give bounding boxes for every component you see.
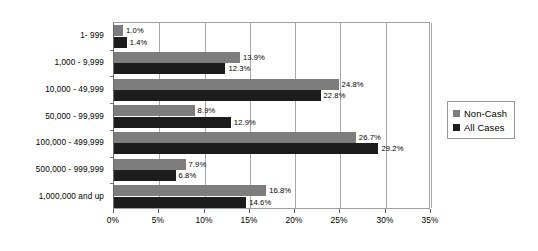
bar-value-label: 24.8% — [342, 79, 364, 90]
bar-value-label: 22.8% — [324, 90, 346, 101]
legend-label: Non-Cash — [464, 108, 507, 119]
bar-value-label: 7.9% — [189, 159, 207, 170]
bar-all-cases — [114, 117, 231, 128]
category-label: 1,000 - 9,999 — [54, 58, 104, 67]
bar-value-label: 29.2% — [381, 143, 403, 154]
x-axis-tick — [204, 209, 205, 213]
bar-non-cash — [114, 25, 123, 36]
y-axis-tick — [110, 76, 114, 77]
bar-value-label: 8.9% — [198, 105, 216, 116]
x-axis-ticks — [113, 209, 430, 214]
gridline — [250, 23, 251, 208]
bar-all-cases — [114, 170, 176, 181]
x-axis-tick-label: 35% — [421, 215, 438, 225]
bar-non-cash — [114, 52, 240, 63]
x-axis-tick-label: 30% — [376, 215, 393, 225]
bar-non-cash — [114, 132, 356, 143]
x-axis-tick — [113, 209, 114, 213]
x-axis-tick — [339, 209, 340, 213]
bar-value-label: 1.0% — [126, 25, 144, 36]
x-axis-tick — [249, 209, 250, 213]
x-axis-tick — [294, 209, 295, 213]
legend-label: All Cases — [464, 122, 505, 133]
category-axis-labels: 1- 9991,000 - 9,99910,000 - 49,99950,000… — [0, 22, 110, 209]
x-axis-tick — [385, 209, 386, 213]
gridline — [340, 23, 341, 208]
bar-value-label: 26.7% — [359, 132, 381, 143]
x-axis-tick-label: 20% — [285, 215, 302, 225]
bar-non-cash — [114, 185, 266, 196]
bar-all-cases — [114, 63, 225, 74]
bar-value-label: 6.8% — [179, 170, 197, 181]
bar-chart: 1- 9991,000 - 9,99910,000 - 49,99950,000… — [0, 0, 538, 251]
gridline — [386, 23, 387, 208]
y-axis-tick — [110, 183, 114, 184]
gridline — [431, 23, 432, 208]
category-label: 50,000 - 99,999 — [45, 111, 104, 120]
bar-value-label: 16.8% — [269, 185, 291, 196]
x-axis-tick — [430, 209, 431, 213]
y-axis-tick — [110, 103, 114, 104]
bar-value-label: 13.9% — [243, 52, 265, 63]
x-axis-tick — [158, 209, 159, 213]
x-axis-tick-label: 25% — [330, 215, 347, 225]
bar-non-cash — [114, 159, 186, 170]
bar-value-label: 12.3% — [228, 63, 250, 74]
x-axis-labels: 0%5%10%15%20%25%30%35% — [113, 215, 430, 229]
x-axis-tick-label: 0% — [107, 215, 119, 225]
bar-all-cases — [114, 37, 127, 48]
legend-swatch-icon — [453, 110, 460, 117]
plot-area: 1.0%1.4%13.9%12.3%24.8%22.8%8.9%12.9%26.… — [113, 22, 430, 209]
bar-all-cases — [114, 197, 246, 208]
chart-legend: Non-CashAll Cases — [447, 101, 515, 139]
category-label: 500,000 - 999,999 — [36, 164, 104, 173]
x-axis-tick-label: 15% — [240, 215, 257, 225]
bar-value-label: 14.6% — [249, 197, 271, 208]
category-label: 1- 999 — [80, 31, 104, 40]
legend-swatch-icon — [453, 124, 460, 131]
bar-non-cash — [114, 105, 195, 116]
bar-value-label: 1.4% — [130, 37, 148, 48]
legend-item[interactable]: Non-Cash — [453, 106, 507, 120]
legend-item[interactable]: All Cases — [453, 120, 507, 134]
bar-value-label: 12.9% — [234, 117, 256, 128]
bar-non-cash — [114, 79, 339, 90]
bar-all-cases — [114, 143, 378, 154]
category-label: 1,000,000 and up — [39, 191, 104, 200]
y-axis-tick — [110, 130, 114, 131]
x-axis-tick-label: 10% — [195, 215, 212, 225]
category-label: 100,000 - 499,999 — [36, 138, 104, 147]
category-label: 10,000 - 49,999 — [45, 84, 104, 93]
gridline — [295, 23, 296, 208]
bar-all-cases — [114, 90, 321, 101]
x-axis-tick-label: 5% — [152, 215, 164, 225]
